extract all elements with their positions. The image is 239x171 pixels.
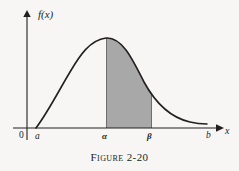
x-axis-label: x <box>225 126 229 136</box>
x-tick-label-alpha: α <box>102 132 107 141</box>
x-tick-label-beta: β <box>147 132 152 141</box>
x-axis-arrow-icon <box>216 124 224 132</box>
shaded-area-alpha-beta <box>36 38 207 128</box>
x-tick-label-b: b <box>206 131 211 141</box>
y-axis-label: f(x) <box>38 9 53 20</box>
plot-area <box>0 0 239 171</box>
figure-container: f(x) x 0 a α β b Figure 2-20 <box>0 0 239 171</box>
origin-label: 0 <box>19 131 24 141</box>
figure-caption: Figure 2-20 <box>0 152 239 163</box>
x-tick-label-a: a <box>35 132 40 142</box>
y-axis-arrow-icon <box>23 10 30 17</box>
